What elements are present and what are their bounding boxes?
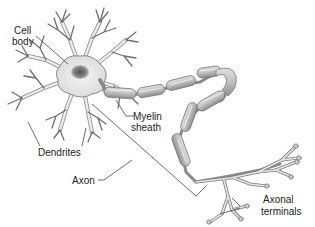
label-axonal-line2: terminals: [261, 206, 302, 217]
label-axon: Axon: [72, 175, 95, 186]
label-myelin-line2: sheath: [131, 122, 161, 133]
myelin-sheath: [104, 65, 237, 167]
nucleus: [71, 65, 89, 79]
label-cell-body-line2: body: [12, 36, 34, 47]
label-axonal-line1: Axonal: [263, 194, 294, 205]
label-dendrites: Dendrites: [38, 147, 81, 158]
label-myelin-line1: Myelin: [133, 111, 162, 122]
cell-body: [56, 56, 106, 97]
neuron-diagram: Cell body Myelin sheath Dendrites Axon A…: [0, 0, 315, 227]
label-cell-body-line1: Cell: [14, 25, 31, 36]
